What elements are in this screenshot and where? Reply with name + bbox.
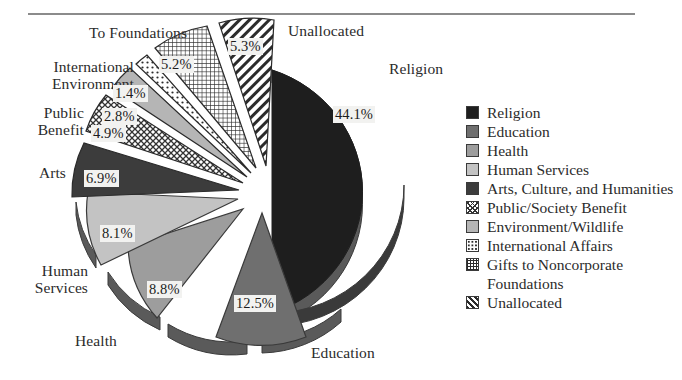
legend-label-foundations: Gifts to Noncorporate — [487, 256, 623, 274]
callout-arts: Arts — [12, 164, 66, 181]
legend-swatch-public-benefit-icon — [466, 201, 479, 214]
legend-item-arts[interactable]: Arts, Culture, and Humanities — [466, 180, 678, 199]
legend-label-health: Health — [487, 142, 528, 160]
legend-label-human-services: Human Services — [487, 161, 589, 179]
callout-public: Public — [10, 104, 84, 121]
legend-label-education: Education — [487, 123, 550, 141]
legend-item-foundations-continued: Foundations — [466, 275, 678, 294]
legend-item-unallocated[interactable]: Unallocated — [466, 294, 678, 313]
chart-legend: Religion Education Health Human Services… — [466, 104, 678, 313]
legend-swatch-arts-icon — [466, 182, 479, 195]
callout-benefit: Benefit — [6, 121, 84, 138]
callout-human: Human — [10, 262, 88, 279]
legend-label-religion: Religion — [487, 104, 540, 122]
legend-item-international[interactable]: International Affairs — [466, 237, 678, 256]
legend-swatch-unallocated-icon — [466, 296, 479, 309]
callout-services: Services — [6, 279, 88, 296]
value-label-public-benefit: 4.9% — [91, 125, 126, 142]
legend-swatch-spacer-icon — [466, 277, 479, 290]
value-label-arts: 6.9% — [84, 170, 119, 187]
legend-item-public-benefit[interactable]: Public/Society Benefit — [466, 199, 678, 218]
value-label-health: 8.8% — [147, 281, 182, 298]
value-label-environment: 2.8% — [102, 108, 137, 125]
legend-swatch-foundations-icon — [466, 258, 479, 271]
value-label-international: 1.4% — [113, 85, 148, 102]
legend-swatch-education-icon — [466, 125, 479, 138]
legend-label-public-benefit: Public/Society Benefit — [487, 199, 627, 217]
legend-item-health[interactable]: Health — [466, 142, 678, 161]
value-label-unallocated: 5.3% — [228, 38, 263, 55]
value-label-religion: 44.1% — [333, 106, 375, 123]
callout-religion: Religion — [389, 60, 479, 77]
legend-label-foundations-line2: Foundations — [487, 275, 564, 293]
callout-education: Education — [311, 344, 421, 361]
legend-label-unallocated: Unallocated — [487, 294, 562, 312]
callout-health: Health — [58, 332, 134, 349]
legend-item-environment[interactable]: Environment/Wildlife — [466, 218, 678, 237]
legend-label-arts: Arts, Culture, and Humanities — [487, 180, 673, 198]
legend-label-international: International Affairs — [487, 237, 613, 255]
legend-swatch-religion-icon — [466, 106, 479, 119]
legend-swatch-health-icon — [466, 144, 479, 157]
pie-chart-figure: To Foundations International Environment… — [0, 0, 682, 380]
legend-swatch-international-icon — [466, 239, 479, 252]
callout-to-foundations: To Foundations — [68, 24, 208, 41]
value-label-education: 12.5% — [234, 295, 276, 312]
legend-item-education[interactable]: Education — [466, 123, 678, 142]
legend-swatch-environment-icon — [466, 220, 479, 233]
value-label-human-services: 8.1% — [100, 225, 135, 242]
callout-unallocated: Unallocated — [288, 22, 408, 39]
legend-swatch-human-services-icon — [466, 163, 479, 176]
callout-international: International — [14, 58, 134, 75]
legend-item-religion[interactable]: Religion — [466, 104, 678, 123]
value-label-foundations: 5.2% — [159, 56, 194, 73]
legend-item-foundations[interactable]: Gifts to Noncorporate — [466, 256, 678, 275]
legend-label-environment: Environment/Wildlife — [487, 218, 623, 236]
legend-item-human-services[interactable]: Human Services — [466, 161, 678, 180]
